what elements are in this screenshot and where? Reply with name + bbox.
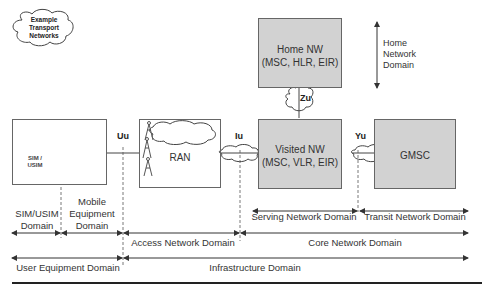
legend-cloud-label: Example Transport Networks (18, 16, 70, 40)
uu-interface-label: Uu (117, 131, 129, 141)
home-nw-subtitle: (MSC, HLR, EIR) (259, 56, 341, 69)
yu-interface-label: Yu (355, 131, 366, 141)
gmsc-box: GMSC (374, 119, 456, 189)
home-network-domain-label: Home Network Domain (383, 38, 416, 71)
home-nw-title: Home NW (259, 43, 341, 56)
gmsc-label: GMSC (375, 149, 455, 162)
sim-usim-domain-label: SIM/USIM Domain (12, 208, 62, 232)
user-equipment-domain-label: User Equipment Domain (12, 262, 124, 274)
mobile-equipment-domain-label: Mobile Equipment Domain (62, 196, 122, 232)
infrastructure-domain-label: Infrastructure Domain (190, 262, 320, 274)
core-network-domain-label: Core Network Domain (290, 237, 420, 249)
user-equipment-box (12, 119, 107, 185)
ran-label: RAN (140, 151, 220, 164)
zu-interface-label: Zu (300, 93, 311, 103)
ran-box: RAN (139, 119, 221, 188)
visited-nw-box: Visited NW (MSC, VLR, EIR) (258, 119, 342, 189)
visited-nw-title: Visited NW (259, 143, 341, 156)
access-network-domain-label: Access Network Domain (128, 237, 238, 249)
transit-network-domain-label: Transit Network Domain (362, 211, 468, 223)
home-nw-box: Home NW (MSC, HLR, EIR) (258, 18, 342, 88)
iu-interface-label: Iu (235, 131, 243, 141)
sim-card-label: SIM / USIM (24, 155, 46, 169)
visited-nw-subtitle: (MSC, VLR, EIR) (259, 156, 341, 169)
serving-network-domain-label: Serving Network Domain (248, 211, 360, 223)
